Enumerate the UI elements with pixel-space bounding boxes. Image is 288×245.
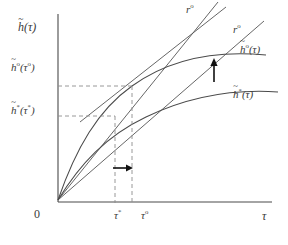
- origin-label: 0: [34, 207, 40, 222]
- figure-canvas: h(τ) ho(τo) h*(τ*) ro ro ho(τ) h*(τ) 0 τ…: [0, 0, 288, 245]
- shift-right-arrow-icon: [113, 164, 133, 171]
- y-axis-label: h(τ): [18, 20, 36, 35]
- x-tick-label-tau-star: τ*: [114, 208, 121, 221]
- y-tick-label-h-star-of-tau-star: h*(τ*): [11, 103, 35, 116]
- x-tick-label-tau-o: τo: [141, 208, 148, 221]
- curve-h-o-label: ho(τ): [240, 42, 260, 55]
- curve-h-star: [58, 91, 278, 200]
- y-tick-label-h-o-of-tau-o: ho(τo): [11, 60, 35, 73]
- ray-outer-label: ro: [186, 2, 194, 15]
- curve-h-star-label: h*(τ): [233, 87, 253, 100]
- ray-inner-label: ro: [233, 22, 241, 35]
- x-axis-label: τ: [262, 209, 266, 224]
- curve-h-o: [58, 54, 266, 200]
- tangent-chord-line: [80, 7, 226, 122]
- shift-up-arrow-icon: [210, 58, 217, 82]
